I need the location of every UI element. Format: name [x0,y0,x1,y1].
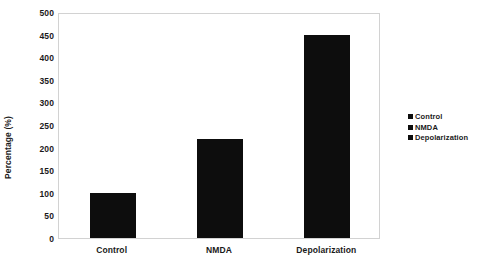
legend-label: Control [415,113,442,121]
bar-nmda [197,139,243,238]
y-axis-tick-label: 150 [40,166,54,176]
x-axis-tick-label: NMDA [206,245,232,255]
legend-label: NMDA [415,124,438,132]
x-axis-tick-labels: ControlNMDADepolarization [58,245,380,261]
y-axis-tick-label: 500 [40,8,54,18]
legend-swatch-icon [408,114,413,119]
y-axis-tick-labels: 500450400350300250200150100500 [22,13,58,239]
y-axis-tick-label: 200 [40,144,54,154]
chart-legend: ControlNMDADepolarization [408,113,468,142]
y-axis-tick-label: 0 [49,234,54,244]
y-axis-tick-label: 250 [40,121,54,131]
legend-item: NMDA [408,124,468,132]
y-axis-tick-label: 400 [40,53,54,63]
legend-swatch-icon [408,135,413,140]
legend-swatch-icon [408,125,413,130]
bars-container [59,14,379,238]
x-axis-tick-label: Control [96,245,127,255]
legend-item: Control [408,113,468,121]
y-axis-tick-label: 50 [44,211,54,221]
bar-chart: Percentage (%) 5004504003503002502001501… [0,0,484,273]
y-axis-title: Percentage (%) [0,0,16,273]
y-axis-tick-label: 350 [40,76,54,86]
x-axis-tick-label: Depolarization [296,245,356,255]
plot-area [58,13,380,239]
bar-control [90,193,136,238]
legend-item: Depolarization [408,134,468,142]
y-axis-tick-label: 450 [40,31,54,41]
y-axis-tick-label: 300 [40,98,54,108]
bar-depolarization [304,35,350,238]
y-axis-tick-label: 100 [40,189,54,199]
legend-label: Depolarization [415,134,468,142]
